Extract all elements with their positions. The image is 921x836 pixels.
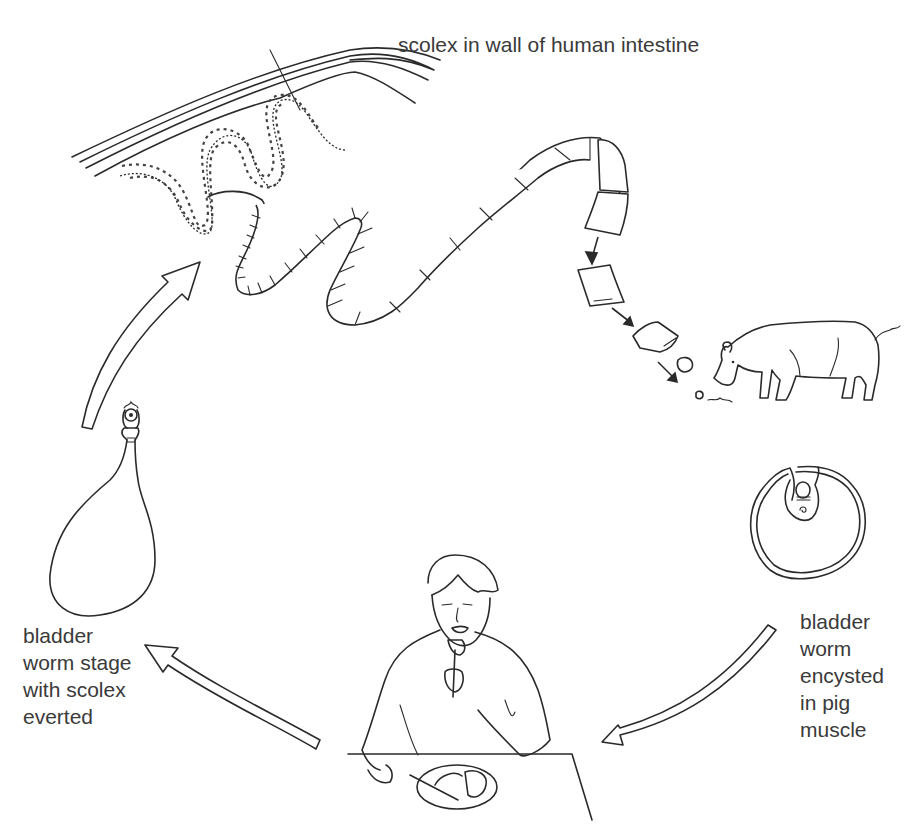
label-bladder-worm-encysted: bladder worm encysted in pig muscle [800, 608, 884, 743]
cycle-arrow-left-icon [145, 645, 320, 749]
tapeworm-body [236, 137, 628, 325]
tapeworm-life-cycle-diagram: scolex in wall of human intestine bladde… [0, 0, 921, 836]
pig-illustration [714, 321, 900, 400]
encysted-cyst-illustration [751, 467, 866, 579]
released-segments [578, 237, 732, 402]
person-eating-illustration [348, 555, 592, 820]
label-bladder-worm-everted: bladder worm stage with scolex everted [23, 622, 132, 730]
label-scolex-in-intestine: scolex in wall of human intestine [398, 31, 699, 58]
scolex-neck [208, 191, 262, 200]
everted-bladder-worm-illustration [50, 402, 155, 616]
cycle-arrow-down-left-icon [602, 625, 776, 745]
intestine-wall [72, 48, 440, 176]
diagram-canvas [0, 0, 921, 836]
table-edge [348, 754, 592, 820]
cycle-arrow-up-icon [82, 262, 200, 429]
